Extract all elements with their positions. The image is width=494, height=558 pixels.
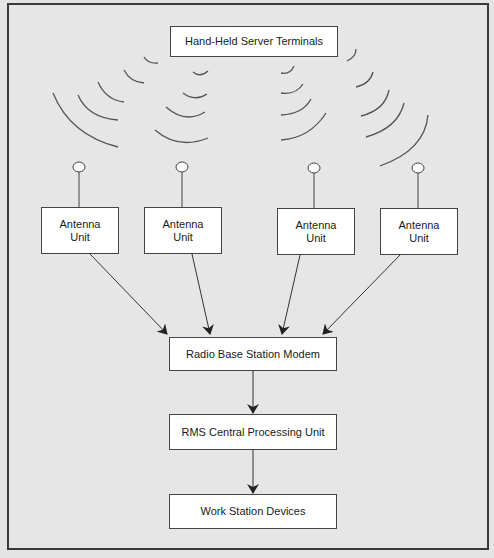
radio-wave-icon (53, 57, 208, 147)
antenna-unit-node-4: Antenna Unit (380, 208, 458, 255)
antenna-unit-node-1: Antenna Unit (41, 207, 119, 254)
node-label: Antenna Unit (60, 218, 101, 244)
diagram-connectors (0, 0, 494, 558)
node-label: Hand-Held Server Terminals (185, 35, 323, 48)
rms-cpu-node: RMS Central Processing Unit (169, 414, 337, 450)
node-label: Antenna Unit (163, 218, 204, 244)
hand-held-terminals-node: Hand-Held Server Terminals (170, 26, 338, 57)
flow-arrow (90, 254, 400, 493)
work-station-node: Work Station Devices (169, 494, 337, 529)
node-label: Work Station Devices (201, 505, 306, 518)
antenna-unit-node-2: Antenna Unit (144, 207, 222, 254)
antenna-icon (73, 162, 424, 208)
radio-base-station-node: Radio Base Station Modem (169, 337, 337, 371)
antenna-unit-node-3: Antenna Unit (277, 208, 355, 255)
node-label: Radio Base Station Modem (186, 348, 320, 361)
radio-wave-icon (281, 49, 428, 166)
node-label: RMS Central Processing Unit (181, 426, 324, 439)
node-label: Antenna Unit (399, 219, 440, 245)
node-label: Antenna Unit (296, 219, 337, 245)
